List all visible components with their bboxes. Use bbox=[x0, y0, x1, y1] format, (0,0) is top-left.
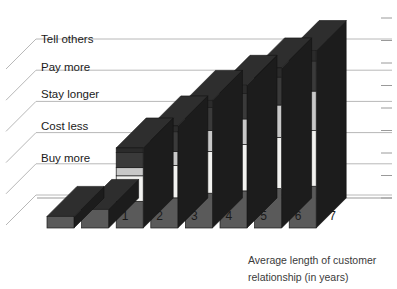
x-tick-label-4: 4 bbox=[226, 209, 233, 223]
bar-side-face bbox=[316, 21, 346, 228]
depth-label-cost-less: Cost less bbox=[41, 120, 89, 132]
depth-grid-diagonal bbox=[6, 133, 36, 163]
depth-label-stay-longer: Stay longer bbox=[41, 88, 99, 100]
depth-grid-diagonal bbox=[6, 164, 36, 194]
x-tick-label-3: 3 bbox=[191, 209, 198, 223]
x-tick-label-2: 2 bbox=[156, 209, 163, 223]
x-axis-title-line2: relationship (in years) bbox=[248, 271, 348, 283]
bar-segment-pay-more bbox=[116, 153, 143, 168]
bar-side-face bbox=[282, 38, 312, 228]
bar-segment-buy-more bbox=[47, 216, 74, 228]
x-tick-label-1: 1 bbox=[122, 209, 129, 223]
depth-grid-diagonal bbox=[6, 70, 36, 100]
depth-grid-diagonal bbox=[6, 195, 36, 225]
stacked-3d-bar-chart: Buy moreCost lessStay longerPay moreTell… bbox=[0, 0, 397, 289]
depth-axis-labels: Buy moreCost lessStay longerPay moreTell… bbox=[41, 33, 99, 164]
depth-grid-diagonal bbox=[6, 101, 36, 131]
x-tick-label-5: 5 bbox=[260, 209, 267, 223]
depth-label-tell-others: Tell others bbox=[41, 33, 94, 45]
x-tick-label-6: 6 bbox=[295, 209, 302, 223]
y-axis-ticks bbox=[381, 18, 392, 198]
depth-grid-diagonal bbox=[6, 39, 36, 69]
bar-segment-stay-longer bbox=[116, 168, 143, 176]
x-tick-label-7: 7 bbox=[329, 209, 336, 223]
x-axis-title-line1: Average length of customer bbox=[248, 254, 377, 266]
chart-container: Buy moreCost lessStay longerPay moreTell… bbox=[0, 0, 397, 289]
depth-label-buy-more: Buy more bbox=[41, 152, 90, 164]
bar-series-group bbox=[47, 21, 346, 228]
depth-label-pay-more: Pay more bbox=[41, 61, 90, 73]
bar-segment-tell-others bbox=[116, 148, 143, 153]
